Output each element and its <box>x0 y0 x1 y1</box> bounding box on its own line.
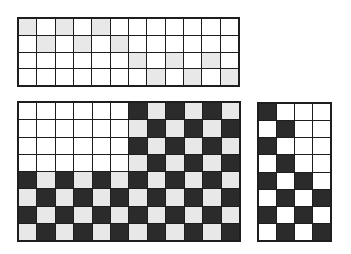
light-cell <box>129 53 146 69</box>
light-cell <box>222 172 239 188</box>
light-cell <box>203 155 220 171</box>
white-cell <box>19 120 36 136</box>
dark-cell <box>111 189 128 205</box>
white-cell <box>74 53 91 69</box>
white-cell <box>37 155 54 171</box>
light-cell <box>111 36 128 52</box>
light-cell <box>203 120 220 136</box>
white-cell <box>184 53 201 69</box>
white-cell <box>56 155 73 171</box>
white-cell <box>111 69 128 85</box>
dark-cell <box>166 138 183 154</box>
dark-cell <box>129 207 146 223</box>
dark-cell <box>166 172 183 188</box>
light-cell <box>56 19 73 35</box>
light-cell <box>166 224 183 240</box>
dark-cell <box>37 189 54 205</box>
dark-cell <box>19 172 36 188</box>
light-cell <box>222 138 239 154</box>
white-cell <box>277 104 294 120</box>
dark-cell <box>203 207 220 223</box>
light-cell <box>74 36 91 52</box>
white-cell <box>129 69 146 85</box>
dark-cell <box>185 120 202 136</box>
white-cell <box>295 155 312 171</box>
white-cell <box>74 120 91 136</box>
white-cell <box>295 121 312 137</box>
white-cell <box>202 69 219 85</box>
white-cell <box>184 36 201 52</box>
light-cell <box>74 172 91 188</box>
dark-cell <box>259 173 276 189</box>
white-cell <box>19 36 36 52</box>
dark-cell <box>129 172 146 188</box>
dark-cell <box>295 207 312 223</box>
white-cell <box>221 19 238 35</box>
bottom-left-grid <box>17 101 241 242</box>
white-cell <box>166 19 183 35</box>
dark-cell <box>19 207 36 223</box>
white-cell <box>313 138 330 154</box>
dark-cell <box>313 224 330 240</box>
dark-cell <box>166 207 183 223</box>
white-cell <box>92 36 109 52</box>
white-cell <box>37 138 54 154</box>
white-cell <box>93 120 110 136</box>
white-cell <box>74 103 91 119</box>
dark-cell <box>74 224 91 240</box>
light-cell <box>203 189 220 205</box>
dark-cell <box>93 172 110 188</box>
white-cell <box>295 190 312 206</box>
white-cell <box>295 138 312 154</box>
dark-cell <box>129 138 146 154</box>
dark-cell <box>222 120 239 136</box>
dark-cell <box>222 189 239 205</box>
dark-cell <box>277 190 294 206</box>
dark-cell <box>111 224 128 240</box>
white-cell <box>313 207 330 223</box>
white-cell <box>92 53 109 69</box>
light-cell <box>222 103 239 119</box>
white-cell <box>56 36 73 52</box>
light-cell <box>147 69 164 85</box>
white-cell <box>313 155 330 171</box>
light-cell <box>166 155 183 171</box>
dark-cell <box>203 172 220 188</box>
white-cell <box>37 103 54 119</box>
dark-cell <box>56 172 73 188</box>
dark-cell <box>259 104 276 120</box>
light-cell <box>56 224 73 240</box>
white-cell <box>166 36 183 52</box>
light-cell <box>185 207 202 223</box>
light-cell <box>93 189 110 205</box>
white-cell <box>221 53 238 69</box>
light-cell <box>148 138 165 154</box>
white-cell <box>56 53 73 69</box>
light-cell <box>92 19 109 35</box>
dark-cell <box>203 103 220 119</box>
white-cell <box>93 103 110 119</box>
light-cell <box>129 189 146 205</box>
white-cell <box>129 19 146 35</box>
dark-cell <box>166 103 183 119</box>
dark-cell <box>37 224 54 240</box>
light-cell <box>129 155 146 171</box>
dark-cell <box>74 189 91 205</box>
white-cell <box>202 19 219 35</box>
dark-cell <box>222 224 239 240</box>
white-cell <box>277 207 294 223</box>
dark-cell <box>56 207 73 223</box>
dark-cell <box>295 173 312 189</box>
white-cell <box>259 190 276 206</box>
white-cell <box>111 53 128 69</box>
white-cell <box>295 224 312 240</box>
light-cell <box>166 189 183 205</box>
white-cell <box>56 138 73 154</box>
dark-cell <box>222 155 239 171</box>
white-cell <box>277 173 294 189</box>
dark-cell <box>185 224 202 240</box>
white-cell <box>92 69 109 85</box>
light-cell <box>74 207 91 223</box>
white-cell <box>74 69 91 85</box>
light-cell <box>185 103 202 119</box>
